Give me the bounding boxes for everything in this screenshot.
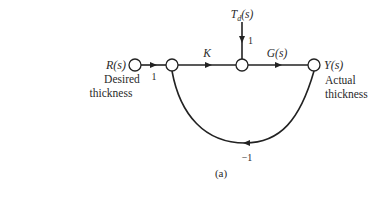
node-sum xyxy=(166,59,178,71)
branch-feedback xyxy=(172,71,314,143)
figure-caption: (a) xyxy=(215,167,228,180)
arrow-feedback xyxy=(243,140,250,146)
signal-flow-graph: R(s) Desired thickness 1 K G(s) −1 Td(s)… xyxy=(0,0,375,200)
gain-feedback: −1 xyxy=(242,152,253,163)
gain-input-to-sum: 1 xyxy=(152,71,157,82)
node-output xyxy=(308,59,320,71)
output-description-line2: thickness xyxy=(325,88,368,100)
input-description-line2: thickness xyxy=(90,87,133,99)
gain-disturbance: 1 xyxy=(248,35,253,46)
gain-k: K xyxy=(202,47,212,59)
arrow-sum-to-disturbance xyxy=(205,62,212,68)
gain-g: G(s) xyxy=(267,47,288,60)
output-description-line1: Actual xyxy=(325,74,356,86)
node-input xyxy=(129,59,141,71)
input-label: R(s) xyxy=(105,58,126,72)
arrow-input-to-sum xyxy=(150,62,157,68)
node-disturbance-sum xyxy=(236,59,248,71)
disturbance-label: Td(s) xyxy=(231,8,254,23)
input-description-line1: Desired xyxy=(104,73,140,85)
arrow-disturbance-to-output xyxy=(275,62,282,68)
arrow-disturbance-input xyxy=(239,36,245,43)
output-label: Y(s) xyxy=(324,58,343,72)
